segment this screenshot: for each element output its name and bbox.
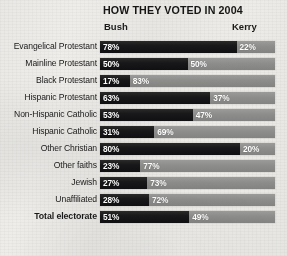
- table-row: Black Protestant17%83%: [0, 72, 287, 89]
- chart-rows: Evangelical Protestant78%22%Mainline Pro…: [0, 38, 287, 225]
- bar-segment-bush: 63%: [100, 92, 210, 104]
- bar-segment-kerry: 83%: [130, 75, 275, 87]
- bar-segment-kerry: 47%: [193, 109, 275, 121]
- row-label: Other Christian: [0, 144, 100, 153]
- bar-segment-bush: 51%: [100, 211, 189, 223]
- stacked-bar: 50%50%: [100, 58, 275, 70]
- table-row: Jewish27%73%: [0, 174, 287, 191]
- how-they-voted-2004-chart: HOW THEY VOTED IN 2004 Bush Kerry Evange…: [0, 0, 287, 256]
- column-header-kerry: Kerry: [232, 21, 257, 32]
- table-row: Other faiths23%77%: [0, 157, 287, 174]
- row-label: Jewish: [0, 178, 100, 187]
- bar-segment-kerry: 22%: [237, 41, 276, 53]
- table-row: Hispanic Protestant63%37%: [0, 89, 287, 106]
- row-label: Non-Hispanic Catholic: [0, 110, 100, 119]
- bar-segment-kerry: 69%: [154, 126, 275, 138]
- bar-segment-bush: 23%: [100, 160, 140, 172]
- row-label: Black Protestant: [0, 76, 100, 85]
- bar-segment-bush: 17%: [100, 75, 130, 87]
- table-row: Hispanic Catholic31%69%: [0, 123, 287, 140]
- table-row: Other Christian80%20%: [0, 140, 287, 157]
- stacked-bar: 17%83%: [100, 75, 275, 87]
- stacked-bar: 53%47%: [100, 109, 275, 121]
- bar-segment-bush: 80%: [100, 143, 240, 155]
- table-row: Evangelical Protestant78%22%: [0, 38, 287, 55]
- bar-segment-kerry: 50%: [188, 58, 276, 70]
- stacked-bar: 23%77%: [100, 160, 275, 172]
- table-row: Non-Hispanic Catholic53%47%: [0, 106, 287, 123]
- row-label: Unaffiliated: [0, 195, 100, 204]
- table-row: Unaffiliated28%72%: [0, 191, 287, 208]
- stacked-bar: 28%72%: [100, 194, 275, 206]
- bar-segment-kerry: 72%: [149, 194, 275, 206]
- stacked-bar: 63%37%: [100, 92, 275, 104]
- stacked-bar: 78%22%: [100, 41, 275, 53]
- stacked-bar: 27%73%: [100, 177, 275, 189]
- bar-segment-kerry: 20%: [240, 143, 275, 155]
- bar-segment-kerry: 77%: [140, 160, 275, 172]
- row-label: Hispanic Protestant: [0, 93, 100, 102]
- row-label: Hispanic Catholic: [0, 127, 100, 136]
- column-header-bush: Bush: [104, 21, 128, 32]
- bar-segment-kerry: 49%: [189, 211, 275, 223]
- bar-segment-kerry: 37%: [210, 92, 275, 104]
- row-label: Total electorate: [0, 212, 100, 221]
- bar-segment-kerry: 73%: [147, 177, 275, 189]
- bar-segment-bush: 31%: [100, 126, 154, 138]
- bar-segment-bush: 27%: [100, 177, 147, 189]
- chart-title: HOW THEY VOTED IN 2004: [103, 4, 243, 16]
- stacked-bar: 31%69%: [100, 126, 275, 138]
- stacked-bar: 51%49%: [100, 211, 275, 223]
- bar-segment-bush: 53%: [100, 109, 193, 121]
- row-label: Mainline Protestant: [0, 59, 100, 68]
- bar-segment-bush: 50%: [100, 58, 188, 70]
- table-row: Mainline Protestant50%50%: [0, 55, 287, 72]
- row-label: Other faiths: [0, 161, 100, 170]
- bar-segment-bush: 28%: [100, 194, 149, 206]
- row-label: Evangelical Protestant: [0, 42, 100, 51]
- stacked-bar: 80%20%: [100, 143, 275, 155]
- bar-segment-bush: 78%: [100, 41, 237, 53]
- table-row: Total electorate51%49%: [0, 208, 287, 225]
